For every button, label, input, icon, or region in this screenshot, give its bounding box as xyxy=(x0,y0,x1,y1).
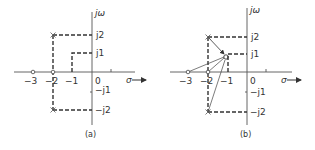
svg-text:−3: −3 xyxy=(24,76,37,86)
panel-a: jω j2 j1 −j1 −j2 −3 −2 −1 0 σ (a) xyxy=(14,8,146,139)
svg-text:−2: −2 xyxy=(200,76,213,86)
svg-text:j1: j1 xyxy=(250,49,259,59)
dash-test-point xyxy=(228,54,247,72)
svg-text:−1: −1 xyxy=(220,76,233,86)
zero-icon xyxy=(51,70,55,74)
svg-text:−j2: −j2 xyxy=(250,107,266,117)
svg-text:−j2: −j2 xyxy=(95,105,111,115)
svg-text:−3: −3 xyxy=(179,76,192,86)
dash-test-point xyxy=(72,53,92,72)
svg-text:(b): (b) xyxy=(240,130,251,139)
svg-text:jω: jω xyxy=(93,8,106,18)
svg-text:j1: j1 xyxy=(95,48,104,58)
svg-text:0: 0 xyxy=(95,76,101,86)
svg-text:(a): (a) xyxy=(85,130,96,139)
svg-text:σ: σ xyxy=(126,75,132,85)
svg-text:0: 0 xyxy=(250,76,256,86)
zero-icon xyxy=(186,70,190,74)
panel-b: jω j2 j1 −j1 −j2 −3 −2 −1 0 σ (b) xyxy=(170,5,301,139)
pole-zero-diagrams: jω j2 j1 −j1 −j2 −3 −2 −1 0 σ (a) xyxy=(0,0,315,150)
svg-text:σ: σ xyxy=(281,75,287,85)
svg-text:−j1: −j1 xyxy=(250,87,266,97)
svg-text:jω: jω xyxy=(248,5,261,15)
zero-icon xyxy=(31,70,35,74)
svg-text:j2: j2 xyxy=(95,30,104,40)
svg-text:−2: −2 xyxy=(45,76,58,86)
zero-icon xyxy=(206,70,210,74)
svg-text:−1: −1 xyxy=(65,76,78,86)
svg-text:j2: j2 xyxy=(250,32,259,42)
svg-text:−j1: −j1 xyxy=(95,85,111,95)
